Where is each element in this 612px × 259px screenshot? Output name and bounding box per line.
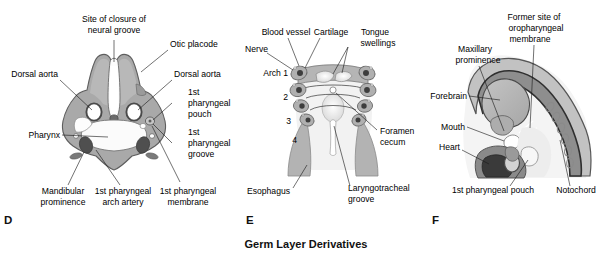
foramen-cecum-pit bbox=[330, 87, 336, 93]
label-esophagus: Esophagus bbox=[247, 186, 290, 196]
hypobranchial-eminence bbox=[322, 94, 344, 122]
nerve-4-right bbox=[362, 114, 364, 116]
label-cartilage: Cartilage bbox=[314, 27, 349, 37]
cartilage-4-left bbox=[306, 118, 311, 123]
first-pharyngeal-groove-structure bbox=[140, 123, 146, 128]
label-former-line3: membrane bbox=[509, 34, 550, 44]
label-laryngo-line1: Laryngotracheal bbox=[348, 183, 410, 193]
label-membrane-line2: membrane bbox=[167, 197, 208, 207]
cartilage-3-left bbox=[299, 103, 304, 108]
label-laryngo-line2: groove bbox=[348, 194, 374, 204]
label-nerve: Nerve bbox=[245, 44, 268, 54]
dorsal-aorta-left-vessel bbox=[86, 103, 101, 120]
panel-e-illustration bbox=[288, 64, 378, 176]
laryngotracheal-groove-slit bbox=[330, 120, 336, 156]
label-first-groove-line1: 1st bbox=[188, 127, 200, 137]
label-maxillary-line2: prominence bbox=[456, 55, 501, 65]
arch-artery-left bbox=[73, 134, 78, 139]
cartilage-2-left bbox=[296, 87, 302, 93]
label-first-pouch-line2: pharyngeal bbox=[188, 98, 231, 108]
nerve-1-right bbox=[370, 67, 373, 70]
label-otic-placode: Otic placode bbox=[170, 39, 218, 49]
label-pharynx: Pharynx bbox=[28, 130, 60, 140]
label-dorsal-aorta-right: Dorsal aorta bbox=[174, 69, 221, 79]
label-mandibular-line2: prominence bbox=[41, 197, 86, 207]
germ-layer-derivatives-figure: Site of closure of neural groove Otic pl… bbox=[0, 0, 612, 259]
nerve-2-left bbox=[293, 84, 295, 86]
label-tongue-line2: swellings bbox=[361, 38, 396, 48]
cartilage-1-left bbox=[297, 70, 303, 76]
label-first-groove-line2: pharyngeal bbox=[188, 138, 231, 148]
nerve-1-left bbox=[294, 67, 297, 70]
label-first-pouch-line1: 1st bbox=[188, 87, 200, 97]
label-dorsal-aorta-left: Dorsal aorta bbox=[11, 69, 58, 79]
label-mandibular-line1: Mandibular bbox=[42, 186, 85, 196]
label-arch-2: 2 bbox=[283, 92, 288, 102]
heart-outflow-tract bbox=[505, 147, 519, 161]
label-tongue-line1: Tongue bbox=[361, 27, 389, 37]
label-maxillary-line1: Maxillary bbox=[458, 44, 493, 54]
cartilage-1-right bbox=[363, 70, 369, 76]
cartilage-2-right bbox=[364, 87, 370, 93]
cartilage-3-right bbox=[361, 103, 366, 108]
label-former-line1: Former site of bbox=[507, 12, 561, 22]
label-neural-groove-line1: Site of closure of bbox=[82, 14, 147, 24]
panel-letter-f: F bbox=[432, 214, 439, 226]
label-blood-vessel: Blood vessel bbox=[262, 27, 311, 37]
panel-letter-e: E bbox=[246, 214, 254, 226]
label-foramen-line1: Foramen bbox=[380, 126, 415, 136]
label-arch-artery-line1: 1st pharyngeal bbox=[95, 186, 151, 196]
label-first-groove-line3: groove bbox=[188, 149, 214, 159]
label-arch-3: 3 bbox=[286, 116, 291, 126]
arch-artery-right bbox=[149, 134, 154, 139]
nerve-4-left bbox=[302, 114, 304, 116]
figure-caption: Germ Layer Derivatives bbox=[245, 238, 368, 250]
panel-letter-d: D bbox=[4, 214, 12, 226]
label-membrane-line1: 1st pharyngeal bbox=[160, 186, 216, 196]
dorsal-aorta-right-vessel bbox=[126, 103, 141, 120]
first-pharyngeal-membrane-point bbox=[149, 120, 152, 123]
label-mouth: Mouth bbox=[441, 122, 465, 132]
neural-groove-lumen bbox=[110, 66, 118, 118]
label-first-pouch-line3: pouch bbox=[188, 109, 212, 119]
nerve-2-right bbox=[371, 84, 373, 86]
label-first-pharyngeal-pouch: 1st pharyngeal pouch bbox=[452, 185, 534, 195]
label-former-line2: oropharyngeal bbox=[509, 23, 564, 33]
label-forebrain: Forebrain bbox=[430, 91, 467, 101]
label-neural-groove-line2: neural groove bbox=[88, 25, 141, 35]
label-foramen-line2: cecum bbox=[380, 137, 405, 147]
label-arch-4: 4 bbox=[292, 135, 297, 145]
label-notochord: Notochord bbox=[556, 185, 596, 195]
nerve-3-right bbox=[368, 100, 370, 102]
label-arch-artery-line2: arch artery bbox=[102, 197, 144, 207]
nerve-3-left bbox=[296, 100, 298, 102]
label-arch-1: Arch 1 bbox=[263, 68, 288, 78]
label-heart: Heart bbox=[439, 142, 461, 152]
cartilage-4-right bbox=[356, 118, 361, 123]
